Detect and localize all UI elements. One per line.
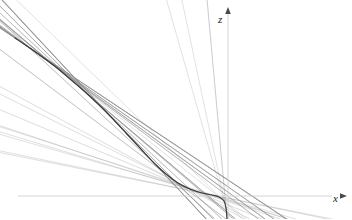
x-axis-label: x <box>333 193 338 204</box>
x-axis-arrow-icon <box>340 193 347 199</box>
tangent-line <box>0 134 296 219</box>
tangent-line <box>0 110 262 219</box>
tangent-line <box>0 20 235 219</box>
tangent-line <box>0 28 287 219</box>
tangent-line <box>0 22 247 219</box>
tangent-line <box>0 87 244 219</box>
z-axis-label: z <box>218 14 222 25</box>
figure-container: z x <box>0 0 352 219</box>
tangent-line <box>0 19 233 219</box>
tangent-line <box>0 127 288 219</box>
tangent-line <box>0 126 280 219</box>
envelope-plot-svg <box>0 0 352 219</box>
tangent-line-family <box>0 0 332 219</box>
tangent-line <box>0 94 250 219</box>
tangent-line <box>0 50 226 220</box>
axes-group <box>18 7 347 214</box>
tangent-line <box>207 0 227 219</box>
tangent-line <box>16 0 242 219</box>
tangent-line <box>0 151 327 219</box>
tangent-line <box>0 153 332 219</box>
z-axis-arrow-icon <box>225 7 231 14</box>
